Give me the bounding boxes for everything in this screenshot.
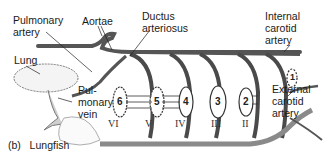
- caption-text: Lungfish: [30, 139, 70, 151]
- arch-number-5: 5: [154, 96, 160, 107]
- label-ductus-arteriosus: Ductus arteriosus: [142, 10, 188, 34]
- label-aortae: Aortae: [82, 15, 113, 27]
- gill-ellipses: [113, 69, 297, 118]
- external-carotid-lower: [290, 118, 322, 140]
- label-line: arteriosus: [142, 22, 188, 34]
- label-external-carotid: External carotid artery: [272, 83, 311, 119]
- caption-letter: (b): [8, 139, 21, 151]
- label-line: carotid: [265, 22, 300, 34]
- label-lung: Lung: [14, 54, 37, 66]
- arch-number-6: 6: [117, 96, 123, 107]
- label-line: Pul-: [78, 84, 113, 96]
- roman-IV: IV: [175, 118, 186, 129]
- roman-V: V: [145, 118, 152, 129]
- label-line: Pulmonary: [13, 14, 63, 26]
- figure-caption: (b) Lungfish: [8, 139, 69, 151]
- arch-number-4: 4: [183, 96, 189, 107]
- label-line: artery: [265, 34, 300, 46]
- label-line: Internal: [265, 10, 300, 22]
- label-line: carotid: [272, 95, 311, 107]
- label-line: artery: [272, 107, 311, 119]
- arch-number-2: 2: [243, 96, 249, 107]
- arch-number-3: 3: [215, 96, 221, 107]
- arch-number-1: 1: [290, 72, 295, 82]
- label-internal-carotid: Internal carotid artery: [265, 10, 300, 46]
- dorsal-aorta: [38, 34, 300, 54]
- label-pulmonary-artery: Pulmonary artery: [13, 14, 63, 38]
- label-pulmonary-vein: Pul- monary vein: [78, 84, 113, 120]
- label-line: Ductus: [142, 10, 188, 22]
- label-line: monary: [78, 96, 113, 108]
- roman-II: II: [242, 118, 249, 129]
- label-line: artery: [13, 26, 63, 38]
- roman-VI: VI: [108, 118, 119, 129]
- roman-III: III: [211, 118, 221, 129]
- label-line: External: [272, 83, 311, 95]
